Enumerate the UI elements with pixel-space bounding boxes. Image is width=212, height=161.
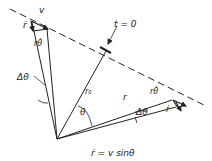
label-rdot-top: ṙ bbox=[23, 20, 28, 30]
label-theta: θ bbox=[80, 107, 86, 117]
velocity-diagram: v ṙ rθ̇ Δθ t = 0 r₀ θ r rθ̇ ṙ Δθ ṙ = v s… bbox=[0, 0, 212, 161]
label-v-top: v bbox=[39, 5, 45, 15]
delta-theta-arc-left bbox=[38, 100, 48, 103]
radius-right-a bbox=[57, 107, 176, 139]
label-r-right: r bbox=[123, 92, 128, 102]
radius-r0 bbox=[57, 51, 106, 139]
label-rthetadot-right: rθ̇ bbox=[150, 86, 158, 96]
equation-label: ṙ = v sinθ bbox=[91, 148, 135, 158]
label-rdot-right: ṙ bbox=[166, 105, 170, 114]
label-delta-theta-left: Δθ bbox=[16, 72, 29, 82]
label-r0: r₀ bbox=[85, 87, 92, 96]
label-rthetadot-top: rθ̇ bbox=[34, 38, 42, 48]
velocity-triangle-right bbox=[173, 100, 186, 111]
radius-left-b bbox=[47, 29, 57, 139]
radius-right-b bbox=[57, 100, 172, 139]
label-delta-theta-right: Δθ bbox=[135, 107, 148, 117]
label-t-zero: t = 0 bbox=[114, 19, 137, 29]
radius-lines bbox=[32, 22, 176, 139]
